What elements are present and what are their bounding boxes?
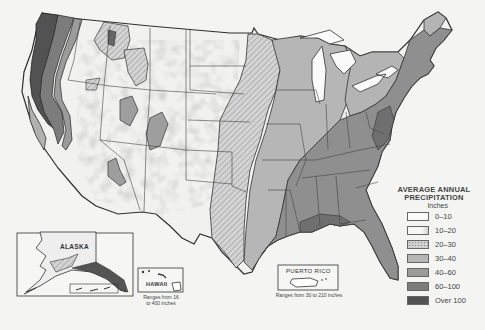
swatch-10-20: [407, 226, 429, 235]
legend-label: 10–20: [435, 226, 456, 235]
legend-item-10-20: 10–20: [407, 223, 484, 237]
puerto-rico-range-note: Ranges from 30 to 210 inches: [268, 292, 350, 298]
hawaii-note-line2: to 400 inches: [134, 300, 188, 306]
legend-title-line2: PRECIPITATION: [384, 194, 484, 202]
legend-label: 30–40: [435, 254, 456, 263]
legend-label: 40–60: [435, 268, 456, 277]
swatch-0-10: [407, 212, 429, 221]
swatch-over-100: [407, 296, 429, 305]
alaska-inset: [17, 232, 133, 296]
legend-item-60-100: 60–100: [407, 279, 484, 293]
puerto-rico-label: PUERTO RICO: [286, 268, 331, 274]
hawaii-inset: [138, 268, 183, 292]
legend-item-0-10: 0–10: [407, 209, 484, 223]
hawaii-range-note: Ranges from 16 to 400 inches: [134, 294, 188, 306]
legend-label: 20–30: [435, 240, 456, 249]
legend-label: 60–100: [435, 282, 460, 291]
swatch-40-60: [407, 268, 429, 277]
legend-item-30-40: 30–40: [407, 251, 484, 265]
legend-unit: Inches: [384, 202, 484, 209]
hawaii-label: HAWAII: [146, 281, 167, 287]
precipitation-legend: AVERAGE ANNUAL PRECIPITATION Inches 0–10…: [384, 186, 484, 307]
swatch-60-100: [407, 282, 429, 291]
legend-item-over-100: Over 100: [407, 293, 484, 307]
alaska-label: ALASKA: [60, 243, 89, 250]
legend-label: 0–10: [435, 212, 452, 221]
swatch-30-40: [407, 254, 429, 263]
legend-item-40-60: 40–60: [407, 265, 484, 279]
swatch-20-30: [407, 240, 429, 249]
legend-item-20-30: 20–30: [407, 237, 484, 251]
legend-label: Over 100: [435, 296, 466, 305]
